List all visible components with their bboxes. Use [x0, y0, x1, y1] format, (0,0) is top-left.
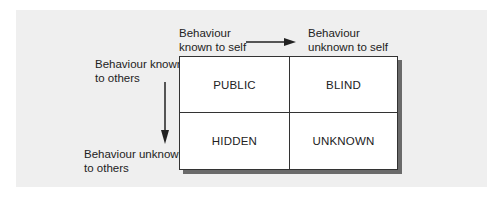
label-line: known to self: [179, 40, 246, 54]
label-line: unknown to self: [308, 40, 388, 54]
quadrant-blind: BLIND: [290, 57, 397, 113]
label-line: Behaviour known: [95, 57, 183, 71]
quadrant-public: PUBLIC: [180, 57, 290, 113]
label-line: Behaviour: [179, 26, 246, 40]
quadrant-unknown: UNKNOWN: [290, 113, 397, 169]
label-known-to-self: Behaviour known to self: [179, 26, 246, 54]
label-line: to others: [84, 161, 185, 175]
quadrant-hidden: HIDDEN: [180, 113, 290, 169]
label-line: Behaviour unknown: [84, 147, 185, 161]
label-known-to-others: Behaviour known to others: [95, 57, 183, 85]
label-line: Behaviour: [308, 26, 388, 40]
label-unknown-to-self: Behaviour unknown to self: [308, 26, 388, 54]
arrow-down-head: [161, 130, 169, 144]
arrow-right-icon: [246, 37, 296, 47]
johari-grid: PUBLIC BLIND HIDDEN UNKNOWN: [179, 56, 398, 170]
arrow-right-head: [284, 38, 296, 46]
arrow-down-icon: [159, 82, 171, 144]
label-unknown-to-others: Behaviour unknown to others: [84, 147, 185, 175]
